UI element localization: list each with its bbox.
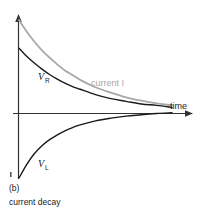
x-axis-arrowhead	[185, 110, 193, 117]
y-axis	[15, 14, 22, 179]
x-axis-label: time	[170, 101, 187, 111]
figure-caption: current decay	[9, 197, 61, 207]
curve-current	[19, 20, 172, 105]
vl-label: V L	[38, 158, 49, 171]
stray-mark	[10, 172, 12, 177]
panel-label: (b)	[9, 183, 20, 193]
vr-label-subscript: R	[45, 77, 50, 84]
figure-current-decay: V R V L current I time (b) current decay	[0, 0, 204, 210]
current-label: current I	[91, 78, 124, 88]
vl-label-subscript: L	[45, 164, 49, 171]
